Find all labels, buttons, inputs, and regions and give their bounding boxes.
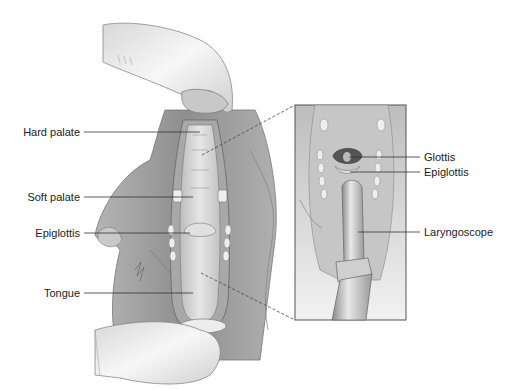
label-inset-epiglottis: Epiglottis xyxy=(424,166,469,178)
label-epiglottis: Epiglottis xyxy=(0,227,80,239)
oral-cavity xyxy=(168,120,231,333)
label-hard-palate: Hard palate xyxy=(0,126,80,138)
label-soft-palate: Soft palate xyxy=(0,191,80,203)
label-glottis: Glottis xyxy=(424,151,455,163)
label-tongue: Tongue xyxy=(0,287,80,299)
inset-view xyxy=(295,105,406,320)
label-laryngoscope: Laryngoscope xyxy=(424,226,493,238)
lower-glove xyxy=(95,322,220,384)
figure: Hard palate Soft palate Epiglottis Tongu… xyxy=(0,0,510,390)
upper-glove xyxy=(103,23,233,113)
